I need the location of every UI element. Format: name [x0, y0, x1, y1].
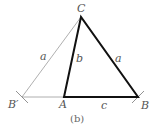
side-label-c: c	[101, 99, 107, 112]
side-label-a-left: a	[40, 50, 47, 63]
vertex-label-c: C	[77, 2, 86, 15]
figure-caption: (b)	[70, 113, 84, 124]
side-label-a-right: a	[115, 52, 122, 65]
triangle-diagram: C a b a B′ A c B (b)	[0, 0, 157, 132]
vertex-label-b-prime: B′	[7, 98, 19, 111]
side-label-b: b	[76, 52, 83, 65]
vertex-label-b: B	[140, 99, 149, 112]
vertex-label-a: A	[58, 98, 67, 111]
